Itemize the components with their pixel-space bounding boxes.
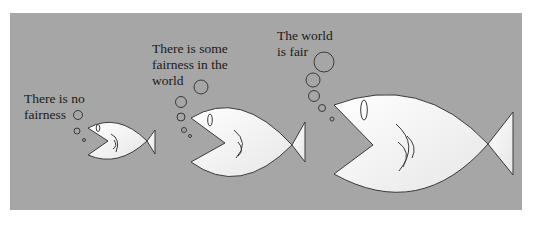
medium-fish-body <box>191 108 292 177</box>
large-fish-body <box>334 95 488 193</box>
medium-fish-tail <box>292 122 305 162</box>
large-fish-tail <box>488 112 513 175</box>
medium-fish <box>191 108 305 177</box>
large-fish-thought: The world is fair <box>277 28 333 60</box>
small-fish <box>88 122 155 159</box>
large-fish <box>334 95 513 193</box>
small-fish-thought: There is no fairness <box>24 91 85 123</box>
large-fish-bubbles <box>306 52 334 121</box>
medium-fish-thought: There is some fairness in the world <box>152 41 228 89</box>
small-fish-tail <box>147 130 155 154</box>
